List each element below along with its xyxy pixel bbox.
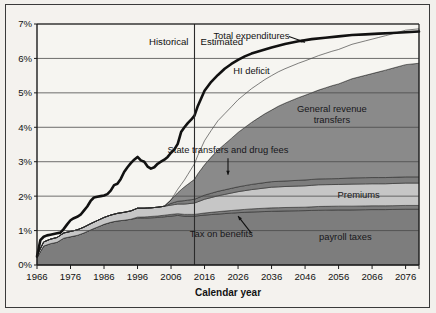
area-chart-svg: HistoricalEstimated0%1%2%3%4%5%6%7%19661… <box>6 5 430 308</box>
y-tick-label-6: 6% <box>18 53 32 64</box>
y-tick-label-0: 0% <box>18 259 32 270</box>
annotation-state-transfers-and-drug-fees: State transfers and drug fees <box>168 144 289 155</box>
x-tick-label-1996: 1996 <box>127 271 148 282</box>
x-tick-label-1976: 1976 <box>60 271 81 282</box>
y-tick-label-2: 2% <box>18 191 32 202</box>
annotation-total-expenditures: Total expenditures <box>213 30 289 41</box>
y-tick-label-4: 4% <box>18 122 32 133</box>
x-tick-label-2076: 2076 <box>395 271 416 282</box>
annotation-hi-deficit: HI deficit <box>233 65 270 76</box>
y-tick-label-1: 1% <box>18 225 32 236</box>
y-tick-label-7: 7% <box>18 18 32 29</box>
x-tick-label-1966: 1966 <box>26 271 47 282</box>
annotation-tax-on-benefits: Tax on benefits <box>190 228 253 239</box>
x-tick-label-2026: 2026 <box>227 271 248 282</box>
x-tick-label-2006: 2006 <box>160 271 181 282</box>
y-tick-label-5: 5% <box>18 87 32 98</box>
x-tick-label-2056: 2056 <box>328 271 349 282</box>
x-tick-label-1986: 1986 <box>93 271 114 282</box>
x-axis-title: Calendar year <box>195 287 261 298</box>
x-tick-label-2036: 2036 <box>261 271 282 282</box>
x-tick-label-2046: 2046 <box>294 271 315 282</box>
period-label-historical: Historical <box>149 36 188 47</box>
x-tick-label-2066: 2066 <box>361 271 382 282</box>
x-tick-label-2016: 2016 <box>194 271 215 282</box>
annotation-premiums: Premiums <box>338 189 381 200</box>
y-tick-label-3: 3% <box>18 156 32 167</box>
chart-figure: HistoricalEstimated0%1%2%3%4%5%6%7%19661… <box>5 4 430 308</box>
chart-plot-area: HistoricalEstimated0%1%2%3%4%5%6%7%19661… <box>6 5 430 308</box>
annotation-payroll-taxes: payroll taxes <box>319 231 372 242</box>
